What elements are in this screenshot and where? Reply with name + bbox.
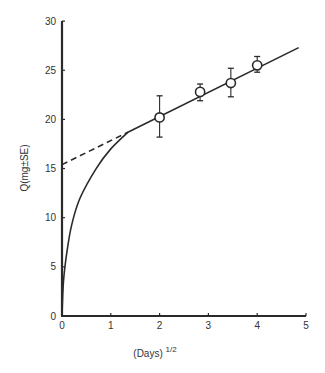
plot-area — [62, 48, 299, 316]
y-tick-label: 30 — [45, 16, 57, 27]
chart: 051015202530012345 Q(mg±SE) (Days) 1/2 — [0, 0, 325, 373]
y-tick-label: 0 — [50, 311, 56, 322]
open-circle-marker — [226, 78, 235, 87]
dashed-extrapolation-line — [62, 132, 128, 164]
data-point — [155, 96, 164, 137]
x-axis-title-superscript: 1/2 — [166, 345, 178, 354]
open-circle-marker — [253, 61, 262, 70]
x-tick-label: 1 — [108, 320, 114, 331]
y-axis-title: Q(mg±SE) — [19, 144, 30, 191]
x-tick-label: 0 — [59, 320, 65, 331]
y-tick-label: 5 — [50, 261, 56, 272]
y-tick-label: 15 — [45, 163, 57, 174]
y-tick-label: 20 — [45, 114, 57, 125]
x-tick-label: 3 — [206, 320, 212, 331]
y-tick-label: 10 — [45, 212, 57, 223]
open-circle-marker — [155, 113, 164, 122]
x-tick-label: 4 — [254, 320, 260, 331]
open-circle-marker — [196, 87, 205, 96]
x-tick-label: 5 — [303, 320, 309, 331]
x-tick-label: 2 — [157, 320, 163, 331]
fit-line — [128, 48, 299, 133]
data-point — [226, 68, 235, 97]
x-axis-title-base: (Days) — [133, 348, 162, 359]
y-tick-label: 25 — [45, 65, 57, 76]
x-axis-title: (Days) 1/2 — [133, 345, 177, 359]
